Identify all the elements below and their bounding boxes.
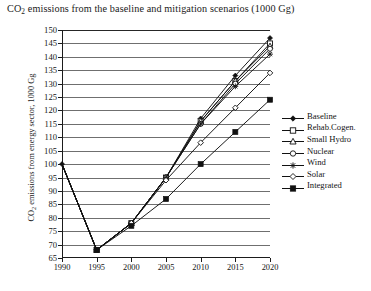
legend-marker-filled-square-icon (281, 180, 305, 191)
data-point-open-square (290, 128, 295, 133)
y-axis-tick-label: 65 (48, 254, 57, 263)
data-point-open-circle (268, 46, 273, 51)
legend-marker-filled-diamond-icon (281, 110, 305, 121)
x-axis-tick-label: 2020 (262, 263, 279, 273)
series-solar (62, 70, 273, 253)
series-nuclear (62, 46, 273, 252)
legend-item-integrated[interactable]: Integrated (281, 180, 369, 192)
data-point-filled-square (94, 247, 99, 252)
chart-title: CO2 emissions from the baseline and miti… (7, 3, 365, 16)
legend-item-solar[interactable]: Solar (281, 168, 369, 180)
y-axis-tick-label: 125 (44, 93, 57, 102)
data-point-filled-diamond (290, 116, 295, 121)
legend-item-small-hydro[interactable]: Small Hydro (281, 133, 369, 145)
legend-label: Small Hydro (307, 134, 351, 144)
y-axis-tick-label: 75 (48, 227, 57, 236)
legend-marker-open-triangle-icon (281, 133, 305, 144)
data-point-asterisk (232, 83, 238, 89)
legend-item-wind[interactable]: Wind (281, 156, 369, 168)
y-axis-tick-label: 85 (48, 200, 57, 209)
x-axis-tick-label: 2000 (123, 263, 140, 273)
y-axis-tick-label: 135 (44, 66, 57, 75)
legend-marker-open-square-icon (281, 122, 305, 133)
series-baseline (60, 36, 273, 253)
x-axis-tick (201, 258, 202, 262)
y-axis-tick-label: 145 (44, 39, 57, 48)
legend-label: Nuclear (307, 146, 334, 156)
data-point-filled-square (290, 186, 295, 191)
chart-figure: CO2 emissions from the baseline and miti… (0, 0, 371, 291)
legend-item-nuclear[interactable]: Nuclear (281, 145, 369, 157)
legend-marker-open-diamond-icon (281, 168, 305, 179)
y-axis-tick-label: 105 (44, 146, 57, 155)
x-axis-tick-label: 2005 (158, 263, 175, 273)
series-line (62, 54, 270, 250)
series-rehab-cogen (62, 41, 273, 253)
data-point-open-circle (290, 151, 295, 156)
x-axis-tick-label: 1995 (88, 263, 105, 273)
y-axis-tick-label: 95 (48, 173, 57, 182)
data-point-filled-square (164, 196, 169, 201)
chart-legend: BaselineRehab.Cogen.Small HydroNuclearWi… (281, 110, 369, 191)
legend-label: Solar (307, 169, 325, 179)
x-axis-tick (270, 258, 271, 262)
y-axis-tick-label: 115 (44, 119, 57, 128)
series-small-hydro (62, 43, 273, 252)
y-axis-title-rest: emissions from energy sector, 1000 Gg (27, 73, 36, 206)
data-point-filled-square (129, 223, 134, 228)
legend-marker-asterisk-icon (281, 157, 305, 168)
y-axis-tick-label: 130 (44, 79, 57, 88)
y-axis-tick-label: 70 (48, 240, 57, 249)
legend-label: Baseline (307, 111, 337, 121)
x-axis-tick (131, 258, 132, 262)
chart-title-rest: emissions from the baseline and mitigati… (25, 3, 294, 14)
series-line (62, 43, 270, 250)
chart-title-prefix: CO (7, 3, 21, 14)
x-axis-tick (235, 258, 236, 262)
y-axis-tick-label: 80 (48, 213, 57, 222)
data-point-filled-square (198, 162, 203, 167)
data-point-filled-square (268, 97, 273, 102)
data-point-open-diamond (290, 174, 296, 180)
legend-marker-open-circle-icon (281, 145, 305, 156)
legend-label: Wind (307, 157, 326, 167)
y-axis-title-subscript: 2 (30, 207, 37, 210)
legend-label: Rehab.Cogen. (307, 122, 356, 132)
y-axis-tick-label: 140 (44, 52, 57, 61)
x-axis-tick (62, 258, 63, 262)
y-axis-tick-label: 110 (44, 133, 57, 142)
x-axis-tick (97, 258, 98, 262)
y-axis-title-prefix: CO (27, 210, 36, 222)
x-axis-tick (166, 258, 167, 262)
series-wind (62, 51, 273, 253)
plot-area: 6570758085909510010511011512012513013514… (62, 30, 270, 258)
x-axis-tick-label: 2015 (227, 263, 244, 273)
y-axis-title: CO2 emissions from energy sector, 1000 G… (27, 38, 36, 258)
legend-item-rehab-cogen[interactable]: Rehab.Cogen. (281, 122, 369, 134)
legend-item-baseline[interactable]: Baseline (281, 110, 369, 122)
series-line (62, 73, 270, 250)
data-point-asterisk (198, 121, 204, 127)
y-axis-tick-label: 100 (44, 160, 57, 169)
data-point-filled-square (233, 129, 238, 134)
chart-title-subscript: 2 (21, 7, 25, 16)
x-axis-tick-label: 1990 (54, 263, 71, 273)
data-point-asterisk (267, 51, 273, 57)
data-point-filled-diamond (60, 162, 65, 167)
y-axis-tick-label: 90 (48, 186, 57, 195)
x-axis-tick-label: 2010 (192, 263, 209, 273)
series-line (62, 49, 270, 250)
series-line (62, 38, 270, 250)
legend-label: Integrated (307, 180, 342, 190)
y-axis-tick-label: 120 (44, 106, 57, 115)
data-series-canvas (62, 30, 270, 258)
y-axis-tick-label: 150 (44, 26, 57, 35)
